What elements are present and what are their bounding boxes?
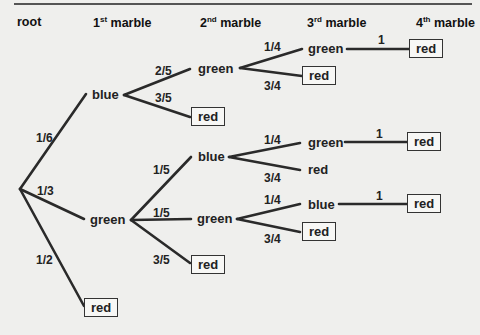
tree-edges bbox=[0, 0, 480, 335]
header-sup: rd bbox=[314, 15, 322, 24]
node-green: green bbox=[90, 212, 125, 227]
header-root: root bbox=[17, 15, 41, 29]
prob-bgg-red: 1 bbox=[378, 33, 385, 47]
header-num: 2 bbox=[200, 16, 207, 30]
prob-gbg-red: 1 bbox=[376, 127, 383, 141]
prob-green-red: 3/5 bbox=[153, 253, 170, 267]
prob-root-green: 1/3 bbox=[37, 184, 54, 198]
prob-green-green: 1/5 bbox=[153, 206, 170, 220]
header-sup: th bbox=[423, 15, 431, 24]
node-bg-green: green bbox=[308, 41, 343, 56]
header-suffix: marble bbox=[322, 16, 366, 30]
node-blue: blue bbox=[92, 87, 119, 102]
prob-ggb-red: 1 bbox=[376, 189, 383, 203]
prob-gg-blue: 1/4 bbox=[264, 193, 281, 207]
node-gb-red: red bbox=[308, 162, 328, 177]
header-num: 1 bbox=[93, 16, 100, 30]
node-gg-red-box: red bbox=[302, 222, 336, 241]
node-gg-blue: blue bbox=[308, 197, 335, 212]
prob-root-blue: 1/6 bbox=[36, 131, 53, 145]
header-suffix: marble bbox=[107, 16, 151, 30]
node-green-blue: blue bbox=[198, 149, 225, 164]
prob-gb-green: 1/4 bbox=[264, 133, 281, 147]
prob-root-red: 1/2 bbox=[36, 253, 53, 267]
header-1st-marble: 1st marble bbox=[93, 15, 152, 30]
node-red-box: red bbox=[84, 298, 118, 317]
header-3rd-marble: 3rd marble bbox=[307, 15, 366, 30]
header-sup: st bbox=[100, 15, 107, 24]
node-blue-green: green bbox=[198, 61, 233, 76]
header-num: 3 bbox=[307, 16, 314, 30]
node-gb-green: green bbox=[308, 135, 343, 150]
prob-green-blue: 1/5 bbox=[153, 163, 170, 177]
prob-bg-red: 3/4 bbox=[264, 79, 281, 93]
node-ggb-red-box: red bbox=[407, 194, 441, 213]
prob-blue-green: 2/5 bbox=[155, 64, 172, 78]
prob-gb-red: 3/4 bbox=[264, 171, 281, 185]
header-num: 4 bbox=[416, 16, 423, 30]
node-green-green: green bbox=[197, 211, 232, 226]
header-sup: nd bbox=[207, 15, 217, 24]
node-gbg-red-box: red bbox=[407, 132, 441, 151]
prob-bg-green: 1/4 bbox=[264, 40, 281, 54]
header-2nd-marble: 2nd marble bbox=[200, 15, 261, 30]
node-green-red-box: red bbox=[191, 255, 225, 274]
header-suffix: marble bbox=[217, 16, 261, 30]
prob-gg-red: 3/4 bbox=[264, 232, 281, 246]
header-suffix: marble bbox=[431, 16, 475, 30]
prob-blue-red: 3/5 bbox=[155, 91, 172, 105]
node-blue-red-box: red bbox=[191, 107, 225, 126]
header-4th-marble: 4th marble bbox=[416, 15, 475, 30]
node-bg-red-box: red bbox=[302, 66, 336, 85]
node-bgg-red-box: red bbox=[409, 39, 443, 58]
